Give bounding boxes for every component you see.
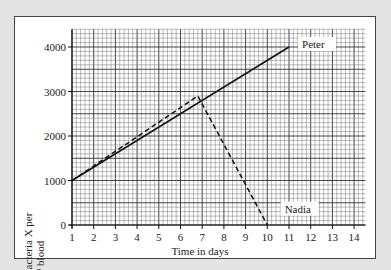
annotation-peter: Peter [302, 38, 325, 50]
annotation-nadia: Nadia [285, 203, 311, 215]
x-tick-label: 10 [262, 231, 274, 243]
x-tick-label: 3 [113, 231, 119, 243]
x-tick-label: 14 [349, 231, 361, 243]
x-tick-label: 6 [178, 231, 184, 243]
x-tick-label: 13 [327, 231, 339, 243]
y-tick-label: 2000 [44, 130, 67, 142]
x-tick-label: 12 [305, 231, 316, 243]
x-tick-label: 8 [221, 231, 227, 243]
x-tick-label: 7 [199, 231, 205, 243]
y-tick-label: 1000 [44, 175, 67, 187]
x-tick-label: 9 [243, 231, 249, 243]
grid [72, 29, 365, 225]
x-tick-label: 5 [156, 231, 162, 243]
x-tick-label: 11 [284, 231, 295, 243]
y-axis-label-line2: 10 cm³ blood [34, 210, 46, 270]
y-tick-label: 3000 [44, 86, 67, 98]
series-nadia-line [72, 96, 267, 225]
y-axis-label-line1: Number of Bacteria X per [22, 210, 34, 270]
line-chart: 010002000300040001234567891011121314Time… [0, 0, 391, 270]
x-tick-label: 4 [134, 231, 140, 243]
y-tick-label: 4000 [44, 41, 67, 53]
y-tick-label: 0 [61, 219, 67, 231]
x-tick-label: 2 [91, 231, 97, 243]
x-tick-label: 1 [69, 231, 75, 243]
x-axis-label: Time in days [171, 245, 228, 257]
